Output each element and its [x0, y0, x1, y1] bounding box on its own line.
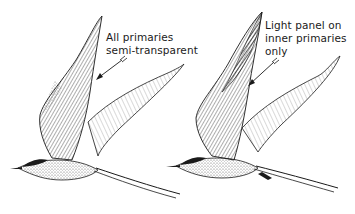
tern-comparison-figure: All primaries semi-transparent Light pan…: [0, 0, 355, 214]
left-arrow-head: [96, 73, 103, 80]
right-caption-line-3: only: [265, 45, 347, 58]
left-bill: [10, 167, 22, 169]
left-far-wing: [88, 64, 184, 156]
left-caption-line-2: semi-transparent: [106, 44, 198, 57]
right-caption: Light panel on inner primaries only: [265, 19, 347, 58]
left-tail-streamer-2: [94, 171, 176, 198]
right-far-wing: [242, 56, 340, 152]
right-tail-streamer-2: [254, 169, 334, 192]
right-caption-line-1: Light panel on: [265, 19, 347, 32]
right-bill: [166, 165, 180, 167]
left-caption-line-1: All primaries: [106, 31, 198, 44]
right-caption-line-2: inner primaries: [265, 32, 347, 45]
right-arrow-line: [250, 62, 274, 84]
left-tail-streamer: [96, 168, 180, 194]
left-caption: All primaries semi-transparent: [106, 31, 198, 57]
